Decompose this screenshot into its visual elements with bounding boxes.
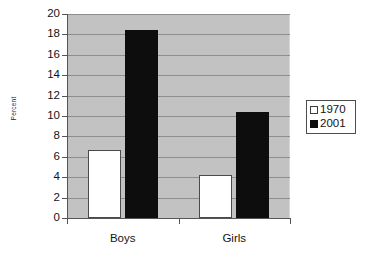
legend-label: 2001 bbox=[320, 118, 346, 130]
plot-area bbox=[67, 14, 290, 218]
legend-entry-1970: 1970 bbox=[310, 103, 355, 117]
filled-square-marker bbox=[310, 120, 318, 128]
y-tick-mark bbox=[62, 116, 67, 117]
y-tick-label: 6 bbox=[54, 151, 60, 163]
y-tick-label: 0 bbox=[54, 212, 60, 224]
y-tick-mark bbox=[62, 14, 67, 15]
x-tick-label-boys: Boys bbox=[83, 232, 163, 244]
bar-girls-2001 bbox=[236, 112, 269, 218]
y-tick-mark bbox=[62, 55, 67, 56]
y-tick-label: 16 bbox=[47, 49, 60, 61]
legend-label: 1970 bbox=[320, 104, 346, 116]
y-tick-mark bbox=[62, 136, 67, 137]
y-tick-label: 10 bbox=[47, 110, 60, 122]
y-tick-mark bbox=[62, 177, 67, 178]
y-axis-line bbox=[67, 14, 68, 219]
y-tick-label: 20 bbox=[47, 8, 60, 20]
y-tick-mark bbox=[62, 96, 67, 97]
bar-boys-1970 bbox=[88, 150, 121, 218]
x-tick-mark bbox=[67, 219, 68, 224]
y-tick-mark bbox=[62, 34, 67, 35]
chart-legend: 19702001 bbox=[306, 100, 356, 134]
y-tick-label: 12 bbox=[47, 90, 60, 102]
y-tick-mark bbox=[62, 75, 67, 76]
x-tick-label-girls: Girls bbox=[194, 232, 274, 244]
y-tick-label: 14 bbox=[47, 69, 60, 81]
gridline bbox=[67, 34, 290, 35]
legend-entry-2001: 2001 bbox=[310, 117, 355, 131]
y-tick-label: 8 bbox=[54, 130, 60, 142]
y-axis-title: Percent bbox=[10, 79, 17, 139]
bar-girls-1970 bbox=[199, 175, 232, 218]
y-tick-label: 18 bbox=[47, 28, 60, 40]
bar-chart-figure: Percent 02468101214161820 BoysGirls 1970… bbox=[0, 0, 367, 257]
y-tick-label: 2 bbox=[54, 192, 60, 204]
gridline bbox=[67, 55, 290, 56]
x-tick-mark bbox=[290, 219, 291, 224]
y-tick-label: 4 bbox=[54, 171, 60, 183]
gridline bbox=[67, 96, 290, 97]
hollow-square-marker bbox=[310, 106, 318, 114]
y-tick-mark bbox=[62, 157, 67, 158]
gridline bbox=[67, 14, 290, 15]
bar-boys-2001 bbox=[125, 30, 158, 218]
y-tick-mark bbox=[62, 198, 67, 199]
x-tick-mark bbox=[179, 219, 180, 224]
gridline bbox=[67, 75, 290, 76]
